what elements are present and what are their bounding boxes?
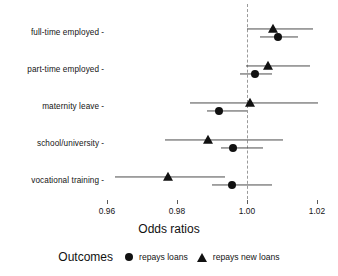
- axis-tick-dash-icon: -: [101, 176, 104, 185]
- x-tick-label-1: 0.98: [169, 206, 185, 216]
- confidence-interval-line: [246, 65, 310, 66]
- chart-legend: Outcomes repays loans repays new loans: [0, 250, 338, 264]
- data-point-circle[interactable]: [251, 70, 259, 78]
- axis-tick-dash-icon: -: [101, 65, 104, 74]
- data-point-triangle[interactable]: [263, 61, 273, 70]
- data-point-circle[interactable]: [274, 33, 282, 41]
- axis-tick-dash-icon: -: [101, 139, 104, 148]
- category-label-2: maternity leave-: [0, 102, 104, 111]
- legend-item-repays-loans[interactable]: repays loans: [125, 252, 188, 262]
- axis-tick-dash-icon: -: [101, 102, 104, 111]
- confidence-interval-line: [165, 139, 283, 140]
- category-label-1: part-time employed-: [0, 65, 104, 74]
- category-label-text: part-time employed: [27, 65, 99, 74]
- circle-marker-icon: [125, 253, 133, 261]
- confidence-interval-line: [207, 110, 247, 111]
- x-tick-label-2: 1.00: [239, 206, 255, 216]
- category-label-3: school/university-: [0, 139, 104, 148]
- legend-item-repays-new-loans[interactable]: repays new loans: [197, 252, 280, 262]
- data-point-circle[interactable]: [228, 181, 236, 189]
- category-label-0: full-time employed-: [0, 28, 104, 37]
- data-point-triangle[interactable]: [245, 98, 255, 107]
- confidence-interval-line: [221, 147, 263, 148]
- data-point-triangle[interactable]: [163, 172, 173, 181]
- confidence-interval-line: [247, 28, 313, 29]
- category-label-text: school/university: [37, 139, 99, 148]
- plot-area: full-time employed-part-time employed-ma…: [0, 0, 338, 210]
- category-label-text: full-time employed: [31, 28, 99, 37]
- odds-ratio-forest-plot: full-time employed-part-time employed-ma…: [0, 0, 338, 276]
- category-label-text: maternity leave: [42, 102, 99, 111]
- data-point-triangle[interactable]: [203, 135, 213, 144]
- data-point-circle[interactable]: [229, 144, 237, 152]
- category-label-4: vocational training-: [0, 176, 104, 185]
- x-tick-mark-2: [247, 200, 248, 204]
- data-point-circle[interactable]: [215, 107, 223, 115]
- triangle-marker-icon: [197, 253, 207, 262]
- axis-tick-dash-icon: -: [101, 28, 104, 37]
- legend-title: Outcomes: [58, 250, 113, 264]
- category-label-text: vocational training: [31, 176, 99, 185]
- confidence-interval-line: [212, 184, 272, 185]
- x-axis-title: Odds ratios: [0, 222, 338, 236]
- x-tick-label-0: 0.96: [99, 206, 115, 216]
- legend-label-repays-loans: repays loans: [139, 252, 188, 262]
- x-tick-label-3: 1.02: [309, 206, 325, 216]
- x-tick-mark-0: [107, 200, 108, 204]
- legend-label-repays-new-loans: repays new loans: [213, 252, 280, 262]
- x-tick-mark-3: [317, 200, 318, 204]
- data-point-triangle[interactable]: [268, 24, 278, 33]
- x-tick-mark-1: [177, 200, 178, 204]
